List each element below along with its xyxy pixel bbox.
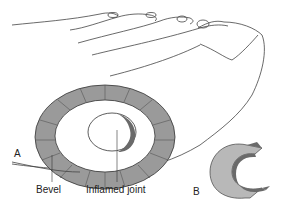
inflamed-joint-label: Inflamed joint [86, 184, 145, 195]
c-shaped-pad [210, 142, 270, 198]
panel-b-label: B [193, 186, 200, 197]
bevel-label: Bevel [36, 184, 61, 195]
bevel-ring [35, 85, 175, 189]
foot-diagram [0, 0, 286, 208]
panel-a-label: A [14, 148, 21, 159]
